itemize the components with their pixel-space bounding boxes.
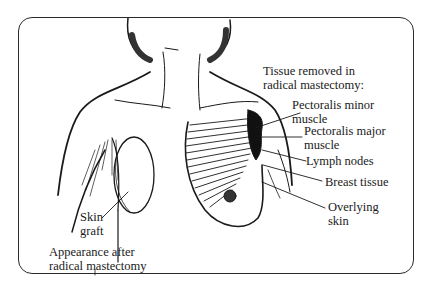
label-line: Lymph nodes — [306, 154, 374, 168]
pectoralis-minor-label: Pectoralis minor muscle — [292, 98, 374, 126]
skin-graft-label: Skin graft — [80, 210, 104, 238]
label-line: skin — [328, 214, 379, 228]
overlying-skin-label: Overlying skin — [328, 200, 379, 228]
label-line: Pectoralis minor — [292, 98, 374, 112]
label-line: graft — [80, 224, 104, 238]
lymph-nodes-label: Lymph nodes — [306, 154, 374, 168]
label-line: Breast tissue — [325, 175, 389, 189]
title-line-1: Tissue removed in — [263, 64, 364, 78]
title-line-2: radical mastectomy: — [263, 78, 364, 92]
appearance-after-label: Appearance after radical mastectomy — [49, 245, 147, 273]
label-line: Appearance after — [49, 245, 147, 259]
label-line: radical mastectomy — [49, 259, 147, 273]
breast-tissue-label: Breast tissue — [325, 175, 389, 189]
title-label: Tissue removed in radical mastectomy: — [263, 64, 364, 92]
pectoralis-major-label: Pectoralis major muscle — [304, 124, 386, 152]
label-line: Skin — [80, 210, 104, 224]
label-line: Overlying — [328, 200, 379, 214]
label-line: muscle — [304, 138, 386, 152]
label-line: Pectoralis major — [304, 124, 386, 138]
